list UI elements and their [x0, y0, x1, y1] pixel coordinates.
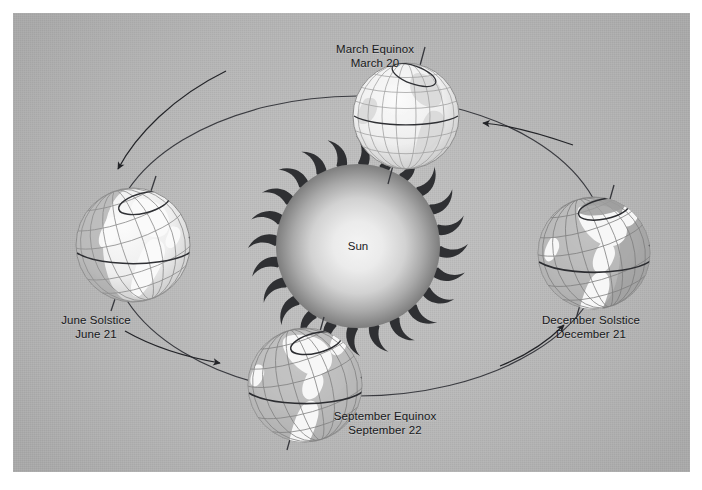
- label-september-equinox-name: September Equinox: [285, 409, 485, 423]
- label-december-solstice-date: December 21: [491, 327, 690, 341]
- label-september-equinox: September Equinox September 22: [285, 409, 485, 437]
- label-september-equinox-date: September 22: [285, 423, 485, 437]
- label-june-solstice: June Solstice June 21: [16, 313, 176, 341]
- label-june-solstice-name: June Solstice: [16, 313, 176, 327]
- globe-september-equinox: [235, 315, 374, 462]
- label-march-equinox: March Equinox March 20: [285, 42, 465, 70]
- globe-june-solstice: [62, 173, 204, 316]
- sun-label: Sun: [327, 239, 389, 253]
- label-march-equinox-date: March 20: [285, 56, 465, 70]
- label-march-equinox-name: March Equinox: [285, 42, 465, 56]
- label-december-solstice: December Solstice December 21: [491, 313, 690, 341]
- illustration-panel: Sun March Equinox March 20 June Solstice…: [13, 13, 690, 472]
- label-june-solstice-date: June 21: [16, 327, 176, 341]
- label-december-solstice-name: December Solstice: [491, 313, 690, 327]
- figure-canvas: Sun March Equinox March 20 June Solstice…: [0, 0, 702, 490]
